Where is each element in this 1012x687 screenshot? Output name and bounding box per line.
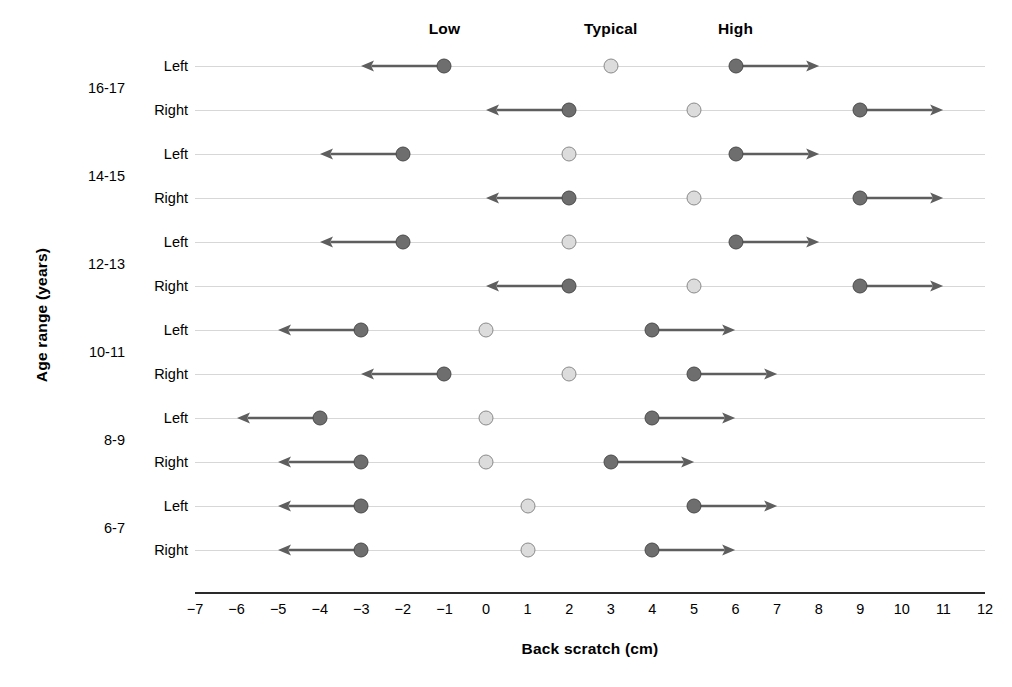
typical-marker xyxy=(686,279,701,294)
y-axis-title: Age range (years) xyxy=(33,175,51,455)
high-marker xyxy=(853,279,868,294)
low-marker xyxy=(354,323,369,338)
row-label-right: Right xyxy=(154,542,188,558)
x-tick-label: 1 xyxy=(524,601,532,617)
low-marker xyxy=(437,367,452,382)
high-marker xyxy=(645,543,660,558)
low-marker xyxy=(395,235,410,250)
row-label-left: Left xyxy=(164,410,188,426)
row-label-left: Left xyxy=(164,234,188,250)
high-marker xyxy=(645,323,660,338)
row-label-right: Right xyxy=(154,190,188,206)
x-tick-label: 8 xyxy=(815,601,823,617)
row-guideline xyxy=(195,66,985,67)
x-tick-label: −4 xyxy=(311,601,328,617)
age-group-label: 14-15 xyxy=(88,168,125,184)
x-tick-label: −3 xyxy=(353,601,370,617)
back-scratch-chart: Age range (years) LowTypicalHigh 16-1714… xyxy=(0,0,1012,687)
typical-marker xyxy=(562,235,577,250)
row-label-left: Left xyxy=(164,322,188,338)
age-group-label: 12-13 xyxy=(88,256,125,272)
typical-marker xyxy=(686,103,701,118)
column-header-high: High xyxy=(718,20,753,38)
low-marker xyxy=(354,543,369,558)
x-tick-label: 12 xyxy=(977,601,993,617)
age-group-label: 16-17 xyxy=(88,80,125,96)
row-label-right: Right xyxy=(154,454,188,470)
column-header-typical: Typical xyxy=(584,20,638,38)
age-group-label: 8-9 xyxy=(104,432,125,448)
high-marker xyxy=(686,367,701,382)
typical-marker xyxy=(520,499,535,514)
high-marker xyxy=(728,235,743,250)
typical-marker xyxy=(562,367,577,382)
row-label-left: Left xyxy=(164,498,188,514)
x-tick-label: 2 xyxy=(565,601,573,617)
age-group-label: 10-11 xyxy=(89,344,125,360)
x-axis-title: Back scratch (cm) xyxy=(195,640,985,658)
typical-marker xyxy=(479,323,494,338)
typical-marker xyxy=(562,147,577,162)
low-marker xyxy=(562,279,577,294)
x-tick-label: −6 xyxy=(228,601,245,617)
high-marker xyxy=(728,147,743,162)
high-marker xyxy=(728,59,743,74)
low-marker xyxy=(312,411,327,426)
age-group-label: 6-7 xyxy=(104,520,125,536)
high-marker xyxy=(853,191,868,206)
low-marker xyxy=(562,191,577,206)
x-tick-label: 3 xyxy=(607,601,615,617)
high-marker xyxy=(645,411,660,426)
high-marker xyxy=(603,455,618,470)
low-marker xyxy=(562,103,577,118)
x-tick-label: 0 xyxy=(482,601,490,617)
x-tick-label: −7 xyxy=(187,601,204,617)
row-label-left: Left xyxy=(164,58,188,74)
low-marker xyxy=(354,455,369,470)
x-tick-label: −1 xyxy=(436,601,453,617)
x-axis-line xyxy=(195,592,985,594)
x-tick-label: −5 xyxy=(270,601,287,617)
x-tick-label: 5 xyxy=(690,601,698,617)
row-guideline xyxy=(195,374,985,375)
low-marker xyxy=(437,59,452,74)
x-tick-label: 11 xyxy=(936,601,951,617)
high-marker xyxy=(853,103,868,118)
typical-marker xyxy=(603,59,618,74)
low-marker xyxy=(395,147,410,162)
column-header-low: Low xyxy=(429,20,461,38)
x-tick-label: −2 xyxy=(395,601,412,617)
x-tick-label: 4 xyxy=(648,601,656,617)
row-label-left: Left xyxy=(164,146,188,162)
row-label-right: Right xyxy=(154,278,188,294)
row-label-right: Right xyxy=(154,366,188,382)
x-tick-label: 7 xyxy=(773,601,781,617)
x-tick-label: 6 xyxy=(731,601,739,617)
high-marker xyxy=(686,499,701,514)
low-marker xyxy=(354,499,369,514)
x-tick-label: 9 xyxy=(856,601,864,617)
typical-marker xyxy=(479,455,494,470)
row-label-right: Right xyxy=(154,102,188,118)
typical-marker xyxy=(520,543,535,558)
x-tick-label: 10 xyxy=(894,601,910,617)
typical-marker xyxy=(479,411,494,426)
typical-marker xyxy=(686,191,701,206)
